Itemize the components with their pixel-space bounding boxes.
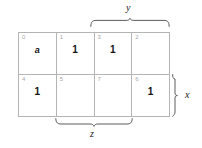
kmap-cell-7[interactable]: 7 — [95, 75, 133, 117]
kmap-cell-0[interactable]: 0 a — [19, 33, 57, 75]
kmap-grid: 0 a 1 1 3 1 2 4 1 5 7 6 1 — [18, 32, 170, 117]
kmap-cell-5[interactable]: 5 — [57, 75, 95, 117]
kmap-cell-index: 3 — [98, 34, 101, 41]
brace-bottom-z — [55, 118, 133, 127]
kmap-cell-4[interactable]: 4 1 — [19, 75, 57, 117]
kmap-cell-index: 2 — [135, 34, 138, 41]
kmap-cell-value: 1 — [95, 44, 132, 56]
kmap-cell-3[interactable]: 3 1 — [95, 33, 133, 75]
kmap-cell-value: 1 — [19, 86, 56, 98]
kmap-cell-index: 1 — [60, 34, 63, 41]
karnaugh-map-figure: y 0 a 1 1 3 1 2 4 1 5 7 — [0, 0, 202, 148]
kmap-cell-1[interactable]: 1 1 — [57, 33, 95, 75]
kmap-cell-index: 4 — [22, 76, 25, 83]
brace-bottom-shape — [55, 118, 133, 127]
brace-top-shape — [90, 18, 170, 27]
kmap-cell-value: 1 — [57, 44, 94, 56]
kmap-cell-index: 0 — [22, 34, 25, 41]
kmap-cell-index: 6 — [135, 76, 138, 83]
brace-top-label: y — [126, 2, 130, 13]
brace-bottom-label: z — [90, 128, 94, 139]
kmap-cell-index: 7 — [98, 76, 101, 83]
kmap-cell-index: 5 — [60, 76, 63, 83]
brace-right-shape — [172, 74, 181, 117]
kmap-cell-6[interactable]: 6 1 — [132, 75, 170, 117]
brace-top-y — [90, 18, 170, 27]
brace-right-label: x — [185, 89, 189, 100]
kmap-cell-value: a — [19, 44, 56, 56]
kmap-cell-value: 1 — [132, 86, 169, 98]
kmap-cell-2[interactable]: 2 — [132, 33, 170, 75]
brace-right-x — [172, 74, 181, 117]
